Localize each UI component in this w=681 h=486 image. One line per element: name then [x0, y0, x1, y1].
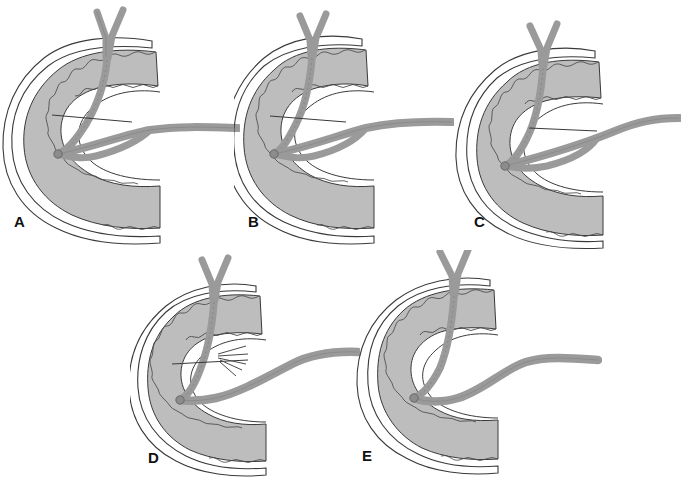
panel-b: B [234, 0, 454, 250]
figure-canvas: A [0, 0, 681, 486]
duodenal-wall [148, 295, 266, 462]
y-vessel [440, 250, 468, 294]
panel-a: A [0, 0, 240, 250]
panel-letter-c: C [474, 214, 485, 229]
panel-d: D [130, 250, 360, 486]
branch-tuft [218, 346, 248, 376]
panel-letter-b: B [248, 214, 259, 229]
panel-letter-d: D [148, 450, 159, 465]
panel-d-illustration [130, 250, 360, 486]
suture-line [529, 128, 597, 131]
panel-letter-e: E [362, 448, 372, 463]
panel-b-illustration [234, 0, 454, 250]
panel-c: C [447, 0, 681, 250]
panel-e-illustration [342, 250, 602, 486]
caption-fragment [0, 474, 681, 486]
panel-e: E [342, 250, 602, 486]
panel-a-illustration [0, 0, 240, 250]
panel-letter-a: A [14, 214, 25, 229]
